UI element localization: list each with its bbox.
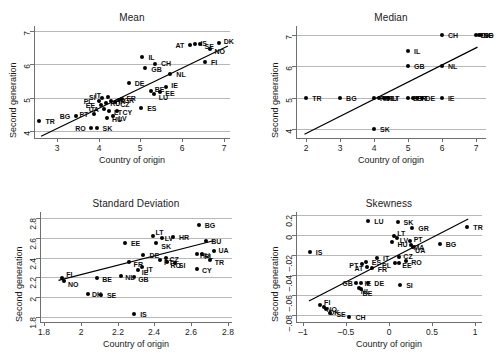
data-point-label: GR — [418, 225, 429, 232]
data-point-label: FI — [324, 299, 330, 306]
data-point — [404, 259, 408, 263]
data-point-label: SK — [404, 219, 414, 226]
data-point-label: DE — [374, 280, 384, 287]
data-point-label: SI — [406, 282, 413, 289]
data-point — [438, 242, 442, 246]
data-point — [390, 240, 394, 244]
x-tick-label: –0.5 — [338, 327, 355, 337]
data-point — [465, 225, 469, 229]
data-point — [364, 260, 368, 264]
data-point — [410, 226, 414, 230]
y-tick-label: –.04 — [284, 275, 294, 292]
data-point — [393, 261, 397, 265]
data-point — [397, 255, 401, 259]
data-point-label: PL — [382, 262, 391, 269]
data-point-label: CH — [355, 314, 365, 321]
y-tick-label: 0 — [284, 235, 294, 240]
data-point-label: SE — [336, 311, 345, 318]
data-point — [308, 250, 312, 254]
data-point — [398, 283, 402, 287]
x-tick-label: 1 — [473, 327, 478, 337]
data-point-label: BG — [446, 241, 457, 248]
data-point — [324, 307, 328, 311]
data-point — [370, 266, 374, 270]
data-point — [347, 315, 351, 319]
data-point — [354, 281, 358, 285]
data-point-label: HU — [397, 241, 407, 248]
data-point-label: AT — [354, 265, 363, 272]
data-point-label: BE — [363, 290, 373, 297]
data-point — [366, 281, 370, 285]
figure-container: Mean456734567TRBGROSKPTHULVLTUAEERUPLHRC… — [0, 0, 496, 361]
data-point — [375, 256, 379, 260]
x-axis-label: Country of origin — [296, 339, 482, 349]
data-point-label: LT — [397, 230, 405, 237]
data-point-label: RO — [411, 259, 422, 266]
data-point — [359, 281, 363, 285]
y-tick-label: –.06 — [284, 295, 294, 312]
panel-title: Skewness — [256, 198, 496, 209]
data-point-label: TR — [473, 224, 482, 231]
data-point-label: IT — [383, 255, 389, 262]
y-tick-label: –.08 — [284, 315, 294, 332]
x-tick-label: 0.5 — [426, 327, 438, 337]
plot-area: 0.20–.02–.04–.06–.08–1–0.500.51ISFINODKS… — [296, 212, 482, 322]
x-axis-line — [296, 322, 482, 323]
data-point-label: GB — [342, 280, 353, 287]
data-point — [395, 236, 399, 240]
data-point-label: IS — [316, 249, 323, 256]
data-point-label: PT — [414, 236, 423, 243]
y-tick-label: 0.2 — [284, 215, 294, 227]
data-point — [396, 220, 400, 224]
data-point-label: UA — [415, 247, 425, 254]
y-axis-label: Second generation — [270, 246, 280, 322]
y-tick-label: –.02 — [284, 255, 294, 272]
data-point — [328, 311, 332, 315]
x-tick-label: –1 — [298, 327, 307, 337]
data-point — [366, 219, 370, 223]
x-tick-label: 0 — [387, 327, 392, 337]
data-point — [397, 261, 401, 265]
data-point-label: LU — [374, 218, 383, 225]
chart-panel-skewness: Skewness0.20–.02–.04–.06–.08–1–0.500.51I… — [0, 0, 496, 361]
